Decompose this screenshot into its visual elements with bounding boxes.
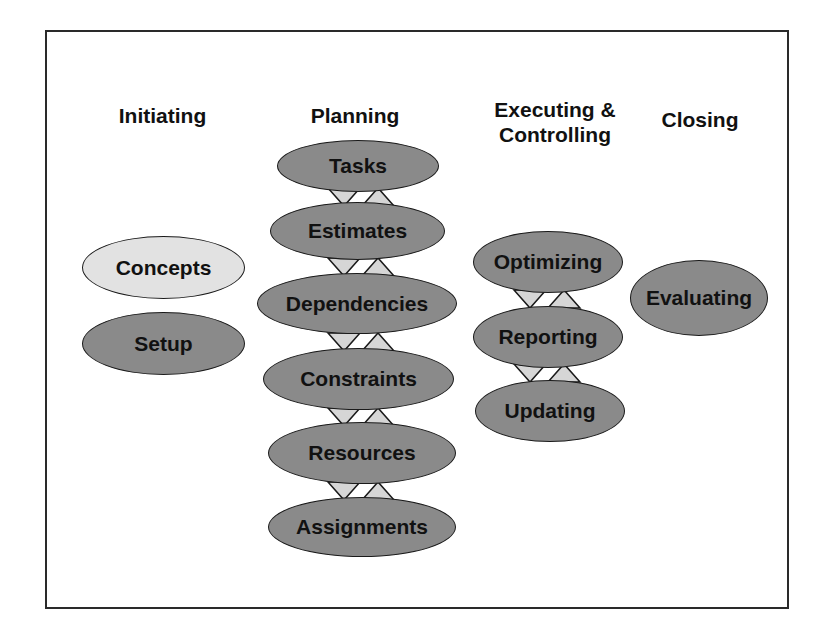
node-label: Evaluating xyxy=(646,286,752,310)
node-label: Assignments xyxy=(296,515,428,539)
node-label: Setup xyxy=(134,332,192,356)
node-label: Constraints xyxy=(300,367,417,391)
heading-planning: Planning xyxy=(290,103,420,128)
node-label: Optimizing xyxy=(494,250,603,274)
node-reporting: Reporting xyxy=(473,306,623,368)
node-estimates: Estimates xyxy=(270,202,445,260)
node-label: Dependencies xyxy=(286,292,428,316)
node-label: Updating xyxy=(505,399,596,423)
node-optimizing: Optimizing xyxy=(473,231,623,293)
heading-executing-line1: Executing & xyxy=(475,97,635,122)
node-resources: Resources xyxy=(268,422,456,484)
node-updating: Updating xyxy=(475,380,625,442)
node-label: Reporting xyxy=(498,325,597,349)
node-tasks: Tasks xyxy=(277,140,439,192)
heading-closing: Closing xyxy=(640,107,760,132)
heading-initiating: Initiating xyxy=(100,103,225,128)
node-concepts: Concepts xyxy=(82,236,245,299)
heading-executing-line2: Controlling xyxy=(475,122,635,147)
node-label: Resources xyxy=(308,441,415,465)
node-setup: Setup xyxy=(82,312,245,375)
node-label: Concepts xyxy=(116,256,212,280)
node-label: Tasks xyxy=(329,154,387,178)
heading-executing-controlling: Executing & Controlling xyxy=(475,97,635,147)
node-dependencies: Dependencies xyxy=(257,273,457,334)
node-evaluating: Evaluating xyxy=(630,260,768,336)
node-label: Estimates xyxy=(308,219,407,243)
node-constraints: Constraints xyxy=(263,348,454,410)
node-assignments: Assignments xyxy=(268,497,456,557)
